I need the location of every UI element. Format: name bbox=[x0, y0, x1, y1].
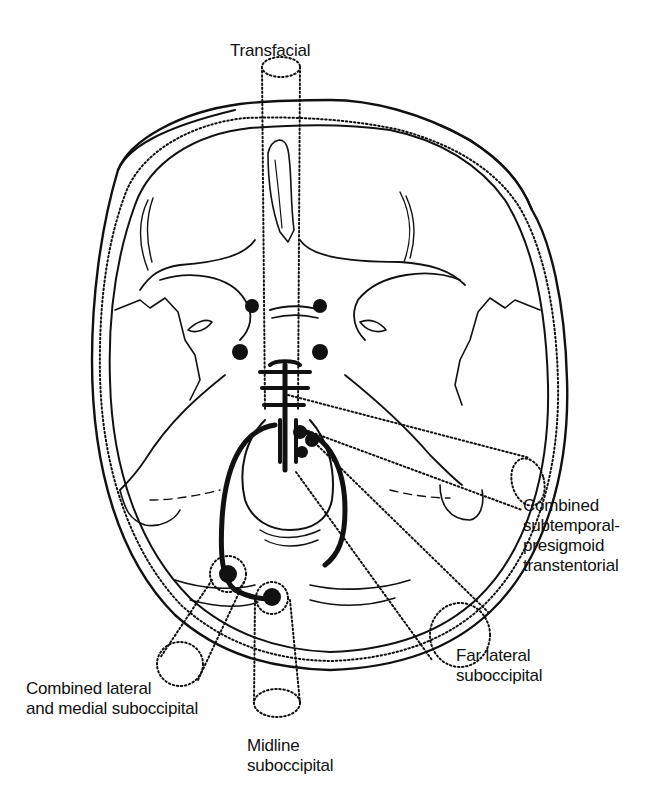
label-transfacial: Transfacial bbox=[230, 41, 310, 61]
middle-fossa bbox=[115, 274, 540, 405]
anterior-fossa bbox=[140, 140, 465, 290]
label-combined-lateral-and-medial-suboccipital: Combined lateral and medial suboccipital bbox=[26, 679, 198, 719]
label-far-lateral-suboccipital: Far lateral suboccipital bbox=[456, 646, 542, 686]
label-midline-suboccipital: Midline suboccipital bbox=[247, 736, 333, 776]
skull-outline bbox=[92, 100, 567, 670]
skull-base-diagram bbox=[0, 0, 669, 794]
label-combined-subtemporal-presigmoid-transtentorial: Combined subtemporal- presigmoid transte… bbox=[523, 496, 620, 576]
vasculature bbox=[219, 361, 345, 606]
trajectory-far-lateral bbox=[296, 440, 490, 667]
posterior-fossa bbox=[120, 375, 483, 606]
